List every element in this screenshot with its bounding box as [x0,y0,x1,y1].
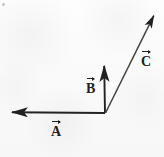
vector-c-label: C [141,49,151,69]
vector-b-letter: B [86,82,95,96]
vector-a-overbar-arrow [51,119,61,124]
vector-b-label: B [86,76,95,96]
vector-a-shaft [12,112,105,113]
vector-a-letter: A [51,125,61,139]
vector-c-overbar-arrow [141,49,151,54]
vector-diagram-figure: A B C [0,0,164,157]
vector-a-label: A [51,119,61,139]
vector-canvas [0,0,164,157]
vector-b-shaft [104,66,105,113]
vector-b-overbar-arrow [86,76,95,81]
vector-b [104,66,105,113]
vector-a [12,112,105,113]
vector-c-letter: C [141,55,151,69]
